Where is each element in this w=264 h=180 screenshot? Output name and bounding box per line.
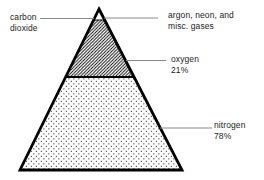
nitrogen-label-percent: 78%: [214, 131, 246, 142]
nitrogen-label: nitrogen 78%: [214, 120, 246, 142]
argon-label-line2: misc. gases: [168, 21, 234, 32]
carbon-dioxide-label-line2: dioxide: [10, 23, 38, 34]
carbon-dioxide-label-line1: carbon: [10, 12, 38, 23]
argon-neon-misc-gases-label: argon, neon, and misc. gases: [168, 10, 234, 32]
carbon-dioxide-label: carbon dioxide: [10, 12, 38, 34]
oxygen-section: [66, 20, 135, 77]
oxygen-label-percent: 21%: [171, 65, 199, 76]
nitrogen-label-name: nitrogen: [214, 120, 246, 131]
argon-label-line1: argon, neon, and: [168, 10, 234, 21]
oxygen-label: oxygen 21%: [171, 54, 199, 76]
atmosphere-pyramid-diagram: carbon dioxide argon, neon, and misc. ga…: [0, 0, 264, 180]
oxygen-label-name: oxygen: [171, 54, 199, 65]
